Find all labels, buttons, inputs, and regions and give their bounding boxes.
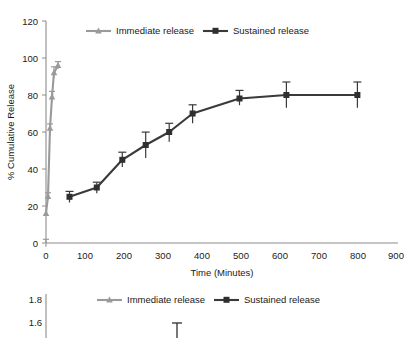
legend-label-immediate-release: Immediate release xyxy=(116,25,194,36)
series-sustained-release xyxy=(66,82,362,203)
second-chart-cropped: 1.8 1.6 Immediate release Sustained rele… xyxy=(0,290,407,338)
x-tick-label-400: 400 xyxy=(194,250,210,261)
legend-item-immediate-release: Immediate release xyxy=(86,25,194,36)
partial-legend-label-sustained-release: Sustained release xyxy=(244,294,320,305)
x-tick-label-0: 0 xyxy=(43,250,48,261)
drug-release-profile-chart: 120 100 80 60 40 20 0 % Cumulative Relea… xyxy=(0,0,407,290)
partial-legend-item-sustained-release: Sustained release xyxy=(214,294,320,305)
error-bars-sustained xyxy=(66,82,362,203)
x-tick-label-800: 800 xyxy=(350,250,366,261)
x-axis-title: Time (Minutes) xyxy=(191,267,254,278)
x-tick-label-200: 200 xyxy=(116,250,132,261)
partial-chart-svg: 1.8 1.6 Immediate release Sustained rele… xyxy=(0,290,407,338)
y-axis-title: % Cumulative Release xyxy=(5,84,16,180)
markers-sustained-release xyxy=(67,92,361,200)
line-immediate-release xyxy=(46,65,58,213)
y-tick-label-120: 120 xyxy=(22,16,38,27)
partial-error-bar xyxy=(172,323,182,338)
partial-legend-item-immediate-release: Immediate release xyxy=(97,294,205,305)
x-tick-label-600: 600 xyxy=(272,250,288,261)
x-tick-label-700: 700 xyxy=(311,250,327,261)
partial-y-tick-label-1-6: 1.6 xyxy=(29,317,42,328)
partial-chart-legend: Immediate release Sustained release xyxy=(97,294,320,305)
y-tick-label-100: 100 xyxy=(22,53,38,64)
y-tick-label-60: 60 xyxy=(27,127,38,138)
legend-label-sustained-release: Sustained release xyxy=(233,25,309,36)
main-chart-svg: 120 100 80 60 40 20 0 % Cumulative Relea… xyxy=(0,0,407,290)
chart-legend: Immediate release Sustained release xyxy=(86,25,309,36)
y-tick-label-40: 40 xyxy=(27,164,38,175)
x-tick-label-100: 100 xyxy=(77,250,93,261)
y-tick-label-0: 0 xyxy=(33,238,38,249)
x-tick-label-900: 900 xyxy=(388,250,404,261)
x-tick-label-500: 500 xyxy=(233,250,249,261)
line-sustained-release xyxy=(70,95,358,197)
partial-y-tick-label-1-8: 1.8 xyxy=(29,294,42,305)
partial-legend-marker-square-icon xyxy=(224,297,230,303)
partial-legend-label-immediate-release: Immediate release xyxy=(127,294,205,305)
y-tick-label-80: 80 xyxy=(27,90,38,101)
legend-marker-square-icon xyxy=(213,28,219,34)
legend-item-sustained-release: Sustained release xyxy=(203,25,309,36)
figure-root: 120 100 80 60 40 20 0 % Cumulative Relea… xyxy=(0,0,407,338)
y-tick-label-20: 20 xyxy=(27,201,38,212)
x-tick-label-300: 300 xyxy=(155,250,171,261)
